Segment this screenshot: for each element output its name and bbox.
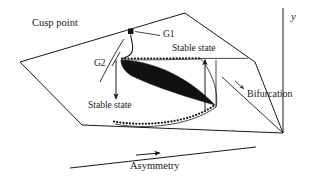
cusp-point-label: Cusp point bbox=[32, 18, 78, 29]
stable-state-upper-label: Stable state bbox=[172, 44, 216, 54]
cusp-catastrophe-figure: Cusp point G1 G2 Stable state Stable sta… bbox=[0, 0, 311, 181]
y-axis-label: y bbox=[291, 11, 296, 22]
cusp-fold-region bbox=[121, 60, 215, 105]
g1-trajectory-curve bbox=[122, 35, 133, 59]
bifurcation-direction-arrow bbox=[235, 81, 244, 89]
stable-state-lower-label: Stable state bbox=[88, 101, 132, 111]
bifurcation-label: Bifurcation bbox=[247, 89, 293, 99]
asymmetry-label: Asymmetry bbox=[130, 161, 180, 172]
g2-label: G2 bbox=[94, 59, 106, 69]
g1-leader-line bbox=[135, 32, 160, 36]
g1-label: G1 bbox=[163, 30, 175, 40]
asymmetry-direction-arrow bbox=[136, 153, 160, 155]
bifurcation-edge-line bbox=[222, 77, 283, 133]
cusp-point-marker bbox=[128, 29, 134, 35]
